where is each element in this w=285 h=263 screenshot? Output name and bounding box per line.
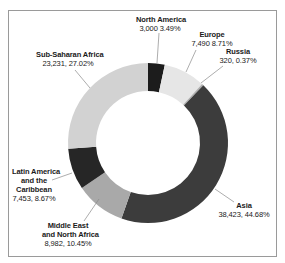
leader-line-north-america — [157, 33, 159, 63]
leader-line-ssa — [75, 70, 90, 88]
donut-slices — [68, 63, 228, 223]
leader-line-mena — [84, 199, 99, 221]
leader-line-russia — [201, 66, 223, 83]
slice-asia — [121, 85, 228, 223]
label-asia: Asia 38,423, 44.68% — [218, 201, 270, 219]
label-sub-saharan-africa: Sub-Saharan Africa 23,231, 27.02% — [36, 50, 100, 68]
label-russia: Russia 320, 0.37% — [218, 47, 258, 65]
leader-line-europe — [186, 50, 196, 72]
label-latin-america-caribbean: Latin America and the Caribbean 7,453, 8… — [12, 167, 56, 203]
label-north-america: North America 3,000 3.49% — [136, 15, 184, 33]
label-europe: Europe 7,490 8.71% — [190, 30, 234, 48]
label-middle-east-north-africa: Middle East and North Africa 8,982, 10.4… — [42, 221, 94, 248]
